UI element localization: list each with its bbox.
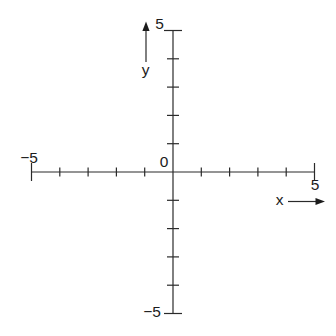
x-min-tick-label: −5 (20, 149, 38, 166)
x-axis-arrow-icon (288, 198, 325, 205)
coordinate-plane: 5 −5 −5 5 0 y x (0, 0, 336, 336)
y-axis-arrow-icon (142, 22, 149, 63)
x-max-tick-label: 5 (311, 176, 320, 193)
x-axis-label: x (276, 191, 284, 208)
y-max-tick-label: 5 (155, 15, 164, 32)
y-min-tick-label: −5 (143, 303, 161, 320)
origin-label: 0 (160, 153, 169, 170)
axes-canvas: 5 −5 −5 5 0 y x (0, 0, 336, 336)
y-axis-label: y (142, 61, 150, 78)
